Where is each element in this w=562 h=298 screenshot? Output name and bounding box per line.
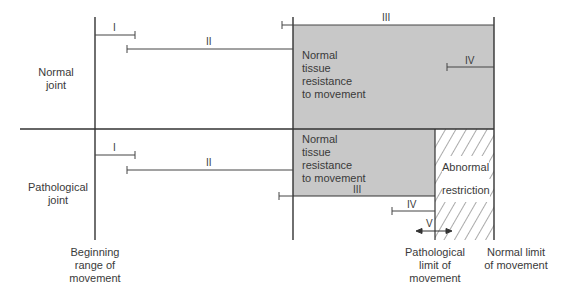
normal-resistance-text: Normal tissue resistance to movement bbox=[302, 49, 366, 101]
normal-I-label: I bbox=[113, 22, 116, 33]
path-V-label: V bbox=[426, 218, 433, 229]
normal-II-label: II bbox=[206, 36, 212, 47]
normal-IV-label: IV bbox=[465, 55, 474, 66]
abnormal-restriction-text: Abnormal restriction bbox=[442, 156, 490, 202]
path-III-label: III bbox=[353, 184, 361, 195]
path-marker-V-arrow bbox=[416, 229, 452, 234]
pathological-joint-label: Pathological joint bbox=[20, 181, 96, 207]
beginning-range-label: Beginning range of movement bbox=[60, 246, 130, 285]
path-IV-label: IV bbox=[407, 199, 416, 210]
path-resistance-text: Normal tissue resistance to movement bbox=[302, 133, 366, 185]
normal-III-label: III bbox=[382, 12, 390, 23]
path-II-label: II bbox=[206, 157, 212, 168]
path-I-label: I bbox=[113, 142, 116, 153]
normal-limit-label: Normal limit of movement bbox=[474, 246, 558, 272]
normal-joint-label: Normal joint bbox=[26, 66, 86, 92]
pathological-limit-label: Pathological limit of movement bbox=[396, 246, 474, 285]
path-marker-III bbox=[279, 192, 293, 200]
